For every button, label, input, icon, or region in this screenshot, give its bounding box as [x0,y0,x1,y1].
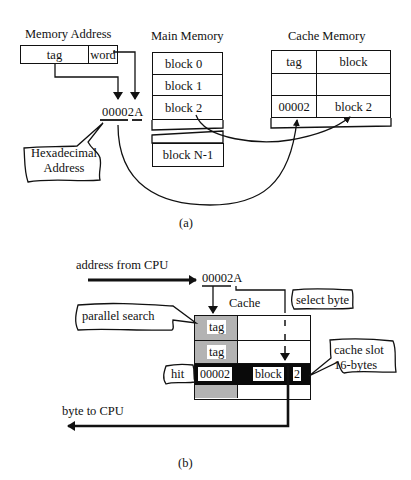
hex-callout-outline [24,123,103,182]
parallel-search-outline [76,303,196,330]
word-arrow [113,52,135,99]
select-byte-outline [292,289,353,309]
connector-lines [0,0,411,480]
tag-to-cache-curve [118,120,297,205]
hit-outline [164,364,195,384]
cache-slot-outline [309,339,396,376]
tag-arrow [55,64,118,99]
